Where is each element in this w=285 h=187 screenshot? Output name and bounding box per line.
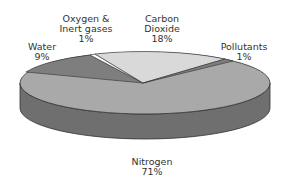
label-water-percent: 9%	[28, 52, 56, 62]
label-nitrogen: Nitrogen 71%	[132, 157, 173, 177]
label-pollutants-percent: 1%	[221, 52, 268, 62]
label-water: Water 9%	[28, 42, 56, 62]
label-oxygen-percent: 1%	[60, 34, 113, 44]
label-carbon-dioxide: Carbon Dioxide 18%	[144, 14, 180, 44]
label-carbon-percent: 18%	[144, 34, 180, 44]
label-oxygen: Oxygen & Inert gases 1%	[60, 14, 113, 44]
label-pollutants: Pollutants 1%	[221, 42, 268, 62]
label-nitrogen-percent: 71%	[132, 167, 173, 177]
